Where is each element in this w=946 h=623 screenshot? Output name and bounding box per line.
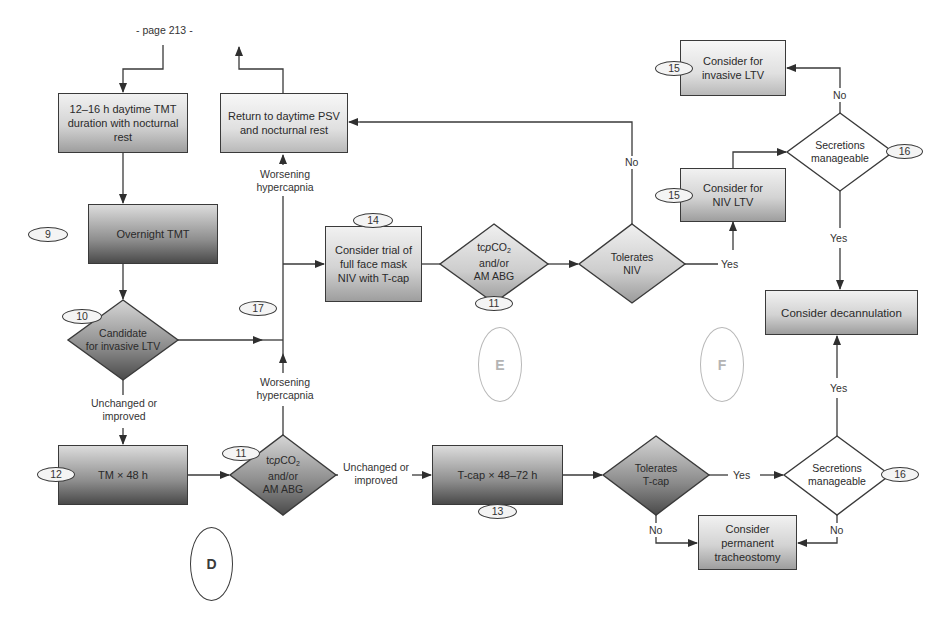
flowchart-canvas: - page 213 - 12–16 h daytime TMT duratio… xyxy=(0,0,946,623)
section-marker-e: E xyxy=(478,327,522,402)
tcpco2-b-co: CO xyxy=(280,454,296,466)
tolerates-tcap-line1: Tolerates xyxy=(635,462,678,475)
label-no-niv: No xyxy=(624,156,639,169)
box-overnight-tmt: Overnight TMT xyxy=(88,204,218,264)
tcpco2-top-line2: and/or xyxy=(474,257,514,270)
candidate-line2: for invasive LTV xyxy=(86,340,161,353)
label-no-secretions-top: No xyxy=(832,89,847,102)
tcpco2-top-line3: AM ABG xyxy=(474,270,514,283)
box-consider-invasive-ltv: Consider for invasive LTV xyxy=(680,40,786,96)
page-label: - page 213 - xyxy=(136,24,193,36)
badge-10: 10 xyxy=(62,309,102,324)
box-trial-full-face-text: Consider trial of full face mask NIV wit… xyxy=(332,243,415,285)
diamond-tolerates-niv-text: Tolerates NIV xyxy=(611,251,654,277)
badge-17: 17 xyxy=(239,301,277,316)
box-permanent-trach: Consider permanent tracheostomy xyxy=(698,515,797,570)
box-consider-invasive-ltv-text: Consider for invasive LTV xyxy=(693,54,773,82)
box-consider-niv-ltv: Consider for NIV LTV xyxy=(680,168,786,222)
diamond-candidate-text: Candidate for invasive LTV xyxy=(86,327,161,353)
label-yes-secretions-top: Yes xyxy=(829,232,848,245)
tcpco2-bottom-line3: AM ABG xyxy=(263,483,303,496)
badge-16-bottom: 16 xyxy=(881,467,919,482)
box-daytime-tmt: 12–16 h daytime TMT duration with noctur… xyxy=(58,93,188,153)
box-tcap-48-72-text: T-cap × 48–72 h xyxy=(458,468,538,482)
label-worsening-top: Worsening hypercapnia xyxy=(249,168,321,194)
box-return-daytime-text: Return to daytime PSV and nocturnal rest xyxy=(225,109,343,137)
badge-13: 13 xyxy=(478,504,517,519)
box-overnight-tmt-text: Overnight TMT xyxy=(116,227,189,241)
badge-11-bottom: 11 xyxy=(222,446,260,461)
label-no-secretions-bottom: No xyxy=(829,524,844,537)
box-trial-full-face: Consider trial of full face mask NIV wit… xyxy=(325,226,422,302)
box-tm-48h: TM × 48 h xyxy=(58,445,188,505)
box-tm-48h-text: TM × 48 h xyxy=(98,468,148,482)
badge-15-niv: 15 xyxy=(655,188,693,203)
tcpco2-top-line1: tcpCO2 xyxy=(474,241,514,257)
label-unchanged-left: Unchanged or improved xyxy=(90,397,158,423)
box-decannulation: Consider decannulation xyxy=(765,290,918,335)
tcpco2-sub: 2 xyxy=(507,247,511,254)
secretions-bottom-line2: manageable xyxy=(808,475,866,488)
badge-9: 9 xyxy=(28,227,68,242)
badge-12: 12 xyxy=(37,467,75,482)
label-yes-niv: Yes xyxy=(720,258,739,271)
label-worsening-bottom: Worsening hypercapnia xyxy=(249,376,321,402)
badge-15-invasive: 15 xyxy=(655,61,693,76)
tcpco2-co: CO xyxy=(491,241,507,253)
tolerates-tcap-line2: T-cap xyxy=(635,475,678,488)
diamond-tolerates-tcap-text: Tolerates T-cap xyxy=(635,462,678,488)
tcpco2-b-sub: 2 xyxy=(296,460,300,467)
label-unchanged-bottom: Unchanged or improved xyxy=(340,461,412,487)
box-decannulation-text: Consider decannulation xyxy=(781,306,902,320)
secretions-top-line1: Secretions xyxy=(811,139,869,152)
tolerates-niv-line2: NIV xyxy=(611,264,654,277)
diamond-tcpco2-top-text: tcpCO2 and/or AM ABG xyxy=(474,241,514,283)
tcpco2-bottom-line2: and/or xyxy=(263,470,303,483)
section-marker-d: D xyxy=(190,527,233,601)
box-daytime-tmt-text: 12–16 h daytime TMT duration with noctur… xyxy=(63,102,183,144)
tcpco2-bottom-line1: tcpCO2 xyxy=(263,454,303,470)
label-yes-tcap: Yes xyxy=(732,469,751,482)
badge-11-top: 11 xyxy=(475,296,513,311)
box-permanent-trach-text: Consider permanent tracheostomy xyxy=(707,522,788,564)
label-yes-secretions-bottom: Yes xyxy=(829,382,848,395)
label-no-tcap: No xyxy=(648,524,663,537)
badge-14: 14 xyxy=(353,213,393,228)
candidate-line1: Candidate xyxy=(86,327,161,340)
secretions-bottom-line1: Secretions xyxy=(808,462,866,475)
tolerates-niv-line1: Tolerates xyxy=(611,251,654,264)
badge-16-top: 16 xyxy=(886,144,923,159)
box-consider-niv-ltv-text: Consider for NIV LTV xyxy=(695,181,771,209)
diamond-tcpco2-bottom-text: tcpCO2 and/or AM ABG xyxy=(263,454,303,496)
secretions-top-line2: manageable xyxy=(811,152,869,165)
diamond-secretions-top-text: Secretions manageable xyxy=(811,139,869,165)
box-tcap-48-72: T-cap × 48–72 h xyxy=(432,445,563,505)
diamond-secretions-bottom-text: Secretions manageable xyxy=(808,462,866,488)
box-return-daytime: Return to daytime PSV and nocturnal rest xyxy=(220,93,348,153)
section-marker-f: F xyxy=(700,327,744,402)
